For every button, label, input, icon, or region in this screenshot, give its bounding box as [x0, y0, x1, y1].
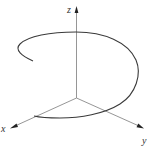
3d-curve-diagram: z x y — [0, 0, 153, 150]
z-axis-arrow-icon — [75, 6, 79, 13]
y-axis: y — [77, 98, 148, 146]
y-axis-line — [77, 98, 140, 126]
x-axis-label: x — [0, 123, 6, 134]
y-axis-arrow-icon — [137, 124, 145, 129]
z-axis-label: z — [66, 4, 71, 15]
x-axis-arrow-icon — [10, 123, 18, 128]
x-axis-line — [15, 98, 77, 126]
x-axis: x — [0, 98, 77, 134]
helix-curve — [18, 32, 138, 118]
z-axis: z — [66, 4, 78, 98]
y-axis-label: y — [141, 135, 147, 146]
